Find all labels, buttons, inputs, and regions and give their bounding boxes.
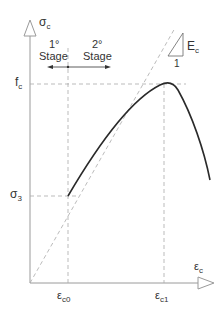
stage-1-label: Stage (39, 50, 68, 62)
slope-run-label: 1 (174, 58, 180, 69)
stage-arrow-right-icon (105, 65, 111, 69)
stage-2-label: Stage (83, 50, 112, 62)
ec1-label: εc1 (155, 289, 169, 304)
y-axis-arrow-icon (24, 20, 36, 36)
stage-arrow-left-icon (47, 65, 53, 69)
x-axis-arrow-icon (198, 277, 214, 289)
x-axis-label: εc (194, 260, 203, 275)
y-axis-label: σc (39, 15, 50, 31)
ec-slope-label: Ec (187, 39, 199, 55)
stage-1-number: 1° (49, 38, 60, 50)
fc-label: fc (15, 75, 22, 91)
stress-strain-diagram: σc 1° Stage 2° Stage fc σ3 εc0 εc1 εc Ec… (0, 0, 224, 313)
ec0-label: εc0 (57, 289, 71, 304)
sigma3-label: σ3 (10, 187, 22, 203)
stage-2-number: 2° (92, 38, 103, 50)
